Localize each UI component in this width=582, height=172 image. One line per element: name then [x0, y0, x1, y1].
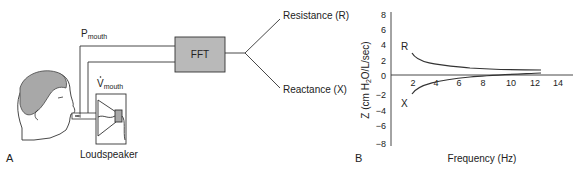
svg-text:−2: −2: [376, 90, 386, 100]
fft-label: FFT: [191, 49, 209, 60]
fft-block: FFT: [175, 37, 225, 72]
curve-r-label: R: [401, 41, 408, 52]
y-axis-label: Z (cm H2O/L/sec): [360, 41, 372, 118]
reactance-label: Reactance (X): [283, 84, 347, 95]
curve-x-label: X: [401, 98, 408, 109]
svg-text:4: 4: [381, 40, 386, 50]
svg-text:6: 6: [456, 78, 461, 88]
svg-text:4: 4: [433, 78, 438, 88]
svg-text:10: 10: [506, 78, 516, 88]
svg-text:8: 8: [381, 10, 386, 20]
panel-b-label: B: [355, 152, 362, 164]
svg-text:2: 2: [381, 56, 386, 66]
y-tick-labels: 8 6 4 2 0 −2 −4 −6 −8: [376, 10, 386, 149]
svg-text:−6: −6: [376, 121, 386, 131]
panel-a-label: A: [6, 152, 14, 164]
resistance-curve: [412, 53, 541, 70]
svg-text:−8: −8: [376, 139, 386, 149]
reactance-curve: [412, 73, 541, 94]
figure: FFT Pmouth Vmouth Loudspeaker Resistance…: [0, 0, 582, 172]
v-mouth-label: Vmouth: [97, 78, 123, 90]
svg-text:−4: −4: [376, 106, 386, 116]
svg-text:2: 2: [410, 78, 415, 88]
loudspeaker-label: Loudspeaker: [80, 149, 138, 160]
svg-text:12: 12: [530, 78, 540, 88]
x-axis-label: Frequency (Hz): [448, 153, 517, 164]
loudspeaker: [96, 94, 126, 144]
svg-text:8: 8: [480, 78, 485, 88]
v-dot-icon: [100, 76, 102, 78]
head-illustration: [18, 71, 75, 140]
p-mouth-label: Pmouth: [81, 28, 107, 40]
mouthpiece-tube: [72, 113, 98, 119]
svg-text:14: 14: [553, 78, 563, 88]
svg-text:6: 6: [381, 25, 386, 35]
resistance-label: Resistance (R): [283, 10, 349, 21]
svg-text:0: 0: [381, 71, 386, 81]
